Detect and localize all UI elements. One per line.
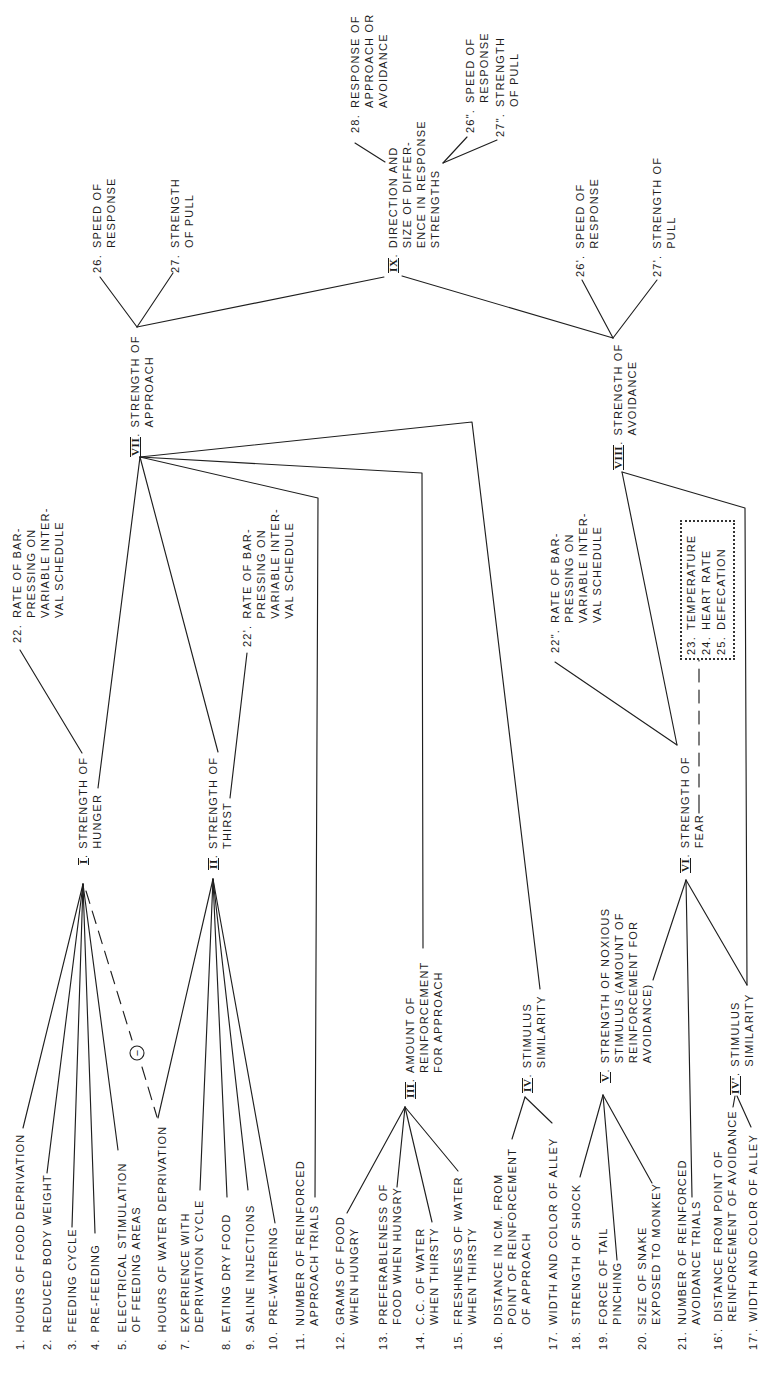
label-line: HUNGER [90,757,104,849]
item-number: 14. [413,1331,427,1350]
punct: . [520,1073,534,1077]
item-number: 16'. [711,1328,725,1350]
fear-indicator-temperature: 23.TEMPERATURE [684,535,698,655]
label-line: REINFORCEMENT FOR [626,908,640,1063]
item-number: 2. [40,1338,54,1350]
label-line: AMOUNT OF [403,962,417,1074]
label-line: RATE OF BAR- [548,512,562,623]
item-number: 20. [635,1331,649,1350]
input-14: 14.C.C. OF WATERWHEN THIRSTY [413,1227,441,1350]
label-line: VARIABLE INTER- [576,512,590,623]
label-line: FRESHNESS OF WATER [451,1176,465,1325]
thirst-input-connectors [158,879,275,1223]
label-line: DIRECTION AND [386,120,400,248]
output-27-prime: 27'.STRENGTH OFPULL [650,157,678,277]
input-8: 8.EATING DRY FOOD [219,1214,233,1350]
input-5: 5.ELECTRICAL STIMULATIONOF FEEDING AREAS [115,1162,143,1350]
item-number: 27". [493,113,507,137]
item-number: 8. [219,1338,233,1350]
node-V-noxious-stimulus: V.STRENGTH OF NOXIOUSSTIMULUS (AMOUNT OF… [598,908,654,1083]
input-13: 13.PREFERABLENESS OFFOOD WHEN HUNGRY [376,1184,404,1350]
item-number: 25. [714,636,728,655]
label-line: AVOIDANCE [625,344,639,436]
label-line: HOURS OF WATER DEPRIVATION [155,1126,169,1333]
input-11: 11.NUMBER OF REINFORCEDAPPROACH TRIALS [293,1160,321,1350]
roman-numeral: IX [388,258,399,273]
output-26: 26.SPEED OFRESPONSE [90,177,118,273]
roman-numeral: IV [522,1078,533,1093]
roman-numeral: III [405,1082,416,1099]
label-line: AVOIDANCE [376,14,390,109]
roman-numeral: VI [680,858,691,873]
item-number: 17. [546,1331,560,1350]
input-1: 1.HOURS OF FOOD DEPRIVATION [13,1134,27,1350]
label-line: ENCE IN RESPONSE [414,120,428,248]
label-line: FEEDING CYCLE [65,1228,79,1332]
label-line: C.C. OF WATER [413,1227,427,1325]
label-line: EATING DRY FOOD [219,1214,233,1333]
output-26-prime: 26'.SPEED OFRESPONSE [573,178,601,277]
output-22-prime: 22'.RATE OF BAR-PRESSING ONVARIABLE INTE… [240,508,296,647]
label-line: STRENGTH OF [76,757,90,849]
output-27: 27.STRENGTHOF PULL [168,178,196,273]
roman-numeral: VII [130,437,141,457]
fear-indicator-defecation: 25.DEFECATION [714,548,728,655]
label-line: RESPONSE [104,177,118,248]
output-26-double-prime: 26".SPEED OFRESPONSE [463,32,491,133]
punct: . [76,854,90,858]
punct: . [678,853,692,857]
label-line: SIMILARITY [742,994,756,1067]
node-IV-similarity: IV.STIMULUSSIMILARITY [520,995,548,1093]
label-line: SPEED OF [573,178,587,249]
bar-pressing-connectors [20,650,677,798]
item-number: 21. [675,1331,689,1350]
input-3: 3.FEEDING CYCLE [65,1228,79,1350]
item-number: 23. [684,636,698,655]
label-line: THIRST [220,757,234,849]
label-line: STRENGTH [168,178,182,248]
label-line: SIMILARITY [534,995,548,1068]
label-line: RESPONSE OF [348,14,362,109]
item-number: 6. [155,1338,169,1350]
label-line: REINFORCEMENT OF AVOIDANCE [725,1110,739,1322]
label-line: WHEN HUNGRY [347,1216,361,1325]
item-number: 15. [451,1331,465,1350]
label-line: HEART RATE [699,550,713,630]
punct: . [206,854,220,858]
item-number: 26. [90,254,104,273]
item-number: 16. [491,1331,505,1350]
label-line: VARIABLE INTER- [38,507,52,618]
item-number: 12. [333,1331,347,1350]
label-line: RATE OF BAR- [10,507,24,618]
label-line: STRENGTH OF SHOCK [569,1184,583,1325]
item-number: 22. [10,624,24,643]
input-17: 17.WIDTH AND COLOR OF ALLEY [546,1137,560,1350]
item-number: 22'. [240,625,254,647]
input-4: 4.PRE-FEEDING [88,1244,102,1350]
label-line: AVOIDANCE) [640,908,654,1063]
output-22-double-prime: 22".RATE OF BAR-PRESSING ONVARIABLE INTE… [548,512,604,653]
node-IV-prime-similarity: IV'.STIMULUSSIMILARITY [728,994,756,1095]
label-line: POINT OF REINFORCEMENT [505,1148,519,1325]
label-line: TEMPERATURE [684,535,698,631]
node-I-hunger: I.STRENGTH OFHUNGER [76,757,104,865]
item-number: 11. [293,1332,307,1350]
label-line: DEFECATION [714,548,728,630]
input-21: 21.NUMBER OF REINFORCEDAVOIDANCE TRIALS [675,1159,703,1350]
label-line: APPROACH OR [362,14,376,109]
label-line: VAL SCHEDULE [52,507,66,618]
label-line: RATE OF BAR- [240,508,254,619]
label-line: NUMBER OF REINFORCED [293,1160,307,1326]
label-line: PREFERABLENESS OF [376,1184,390,1325]
item-number: 27'. [650,255,664,277]
label-line: FOR APPROACH [431,962,445,1074]
label-line: DISTANCE FROM POINT OF [711,1110,725,1322]
item-number: 5. [115,1338,129,1350]
punct: . [598,1068,612,1072]
input-9: 9.SALINE INJECTIONS [243,1204,257,1350]
punct: . [386,253,400,257]
fear-indicator-heart-rate: 24.HEART RATE [699,550,713,655]
node-IX-response-difference: IX.DIRECTION ANDSIZE OF DIFFER-ENCE IN R… [386,120,442,273]
node-III-reinforcement: III.AMOUNT OFREINFORCEMENTFOR APPROACH [403,962,445,1099]
label-line: STRENGTH OF [678,756,692,848]
